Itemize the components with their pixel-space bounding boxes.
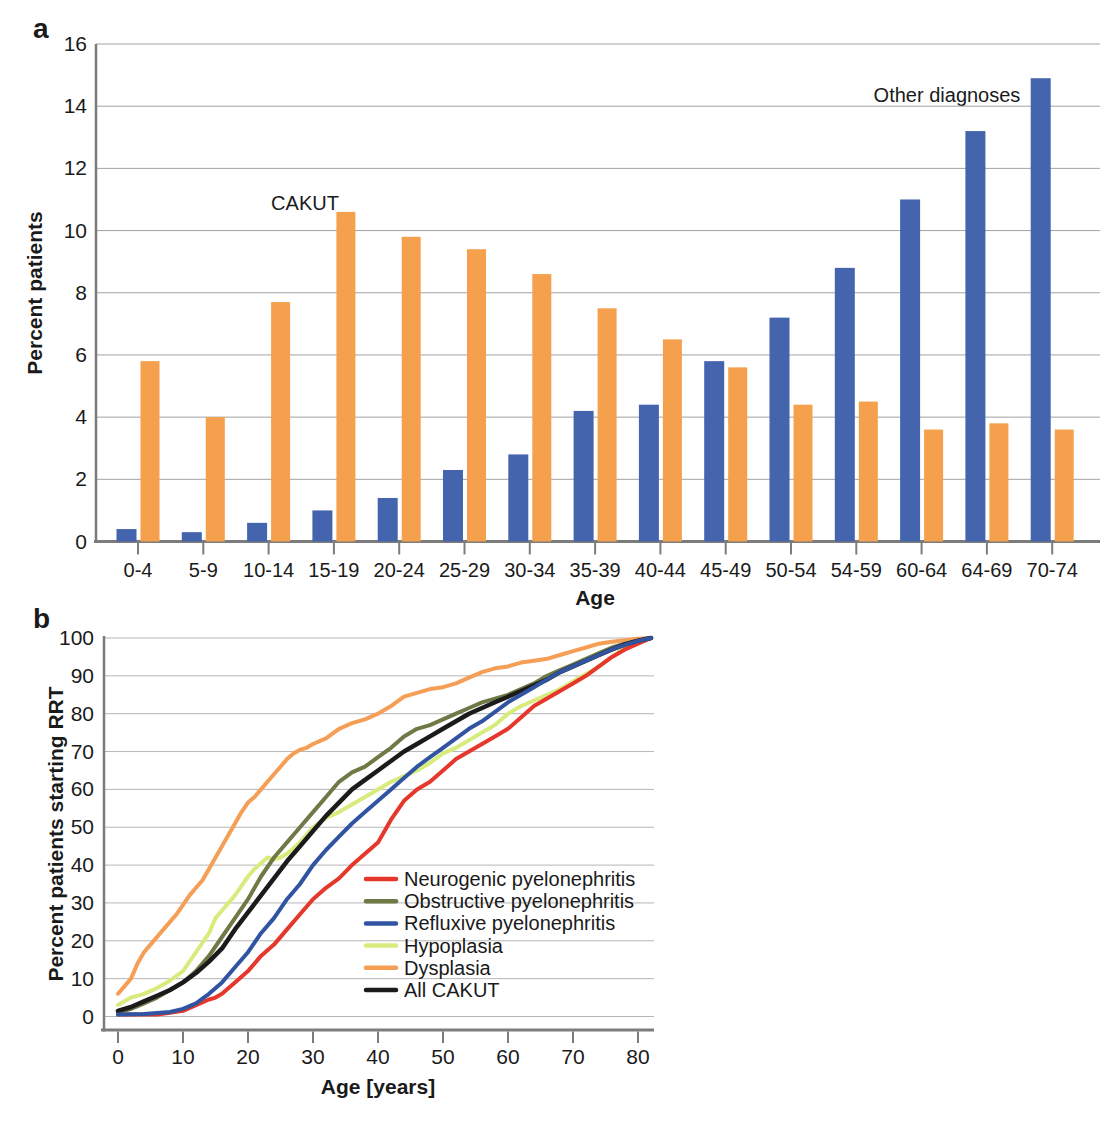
panel-a-ytick-10: 10 <box>64 219 87 242</box>
bar-other-diagnoses-40-44 <box>639 405 659 542</box>
panel-a-chart: 02468101214160-45-910-1415-1920-2425-293… <box>64 32 1100 581</box>
panel-b-xtick-label-70: 70 <box>561 1045 584 1068</box>
legend-label-1: Obstructive pyelonephritis <box>404 890 634 912</box>
bar-other-diagnoses-45-49 <box>704 361 724 541</box>
curve-all-cakut <box>118 638 651 1011</box>
panel-b-ytick-40: 40 <box>71 853 94 876</box>
panel-a-xtick-label-70-74: 70-74 <box>1027 559 1078 581</box>
annotation-cakut: CAKUT <box>271 192 339 214</box>
panel-b-ytick-10: 10 <box>71 967 94 990</box>
legend-label-5: All CAKUT <box>404 979 500 1001</box>
panel-a-xtick-label-10-14: 10-14 <box>243 559 294 581</box>
panel-b-ytick-20: 20 <box>71 929 94 952</box>
panel-a-xtick-label-25-29: 25-29 <box>439 559 490 581</box>
panel-b-xtick-label-20: 20 <box>236 1045 259 1068</box>
panel-b-xtick-label-80: 80 <box>626 1045 649 1068</box>
bar-other-diagnoses-70-74 <box>1031 78 1051 541</box>
panel-a-xtick-label-54-59: 54-59 <box>831 559 882 581</box>
bar-cakut-25-29 <box>467 249 486 541</box>
panel-a-ytick-14: 14 <box>64 94 88 117</box>
panel-a-xtick-label-0-4: 0-4 <box>124 559 153 581</box>
panel-a-ytick-16: 16 <box>64 32 87 55</box>
bar-cakut-45-49 <box>728 367 747 541</box>
bar-cakut-60-64 <box>924 430 943 542</box>
panel-a-xtick-label-50-54: 50-54 <box>765 559 816 581</box>
panel-b-ytick-70: 70 <box>71 740 94 763</box>
panel-a-xtick-label-45-49: 45-49 <box>700 559 751 581</box>
panel-b-ytick-80: 80 <box>71 702 94 725</box>
bar-other-diagnoses-15-19 <box>312 510 332 541</box>
panel-b-y-axis-title: Percent patients starting RRT <box>44 686 67 981</box>
bar-other-diagnoses-10-14 <box>247 523 267 542</box>
annotation-other-diagnoses: Other diagnoses <box>874 84 1021 106</box>
bar-other-diagnoses-20-24 <box>378 498 398 542</box>
bar-other-diagnoses-64-69 <box>965 131 985 541</box>
panel-a-xtick-label-35-39: 35-39 <box>570 559 621 581</box>
bar-other-diagnoses-5-9 <box>182 532 202 541</box>
bar-other-diagnoses-60-64 <box>900 199 920 541</box>
panel-a-ytick-8: 8 <box>75 281 87 304</box>
panel-a-x-axis-title: Age <box>575 586 615 609</box>
panel-a-xtick-label-30-34: 30-34 <box>504 559 555 581</box>
bar-cakut-50-54 <box>794 405 813 542</box>
panel-a-ytick-2: 2 <box>75 467 87 490</box>
panel-a-xtick-label-64-69: 64-69 <box>961 559 1012 581</box>
figure-canvas: a Percent patients Age CAKUT Other diagn… <box>0 0 1115 1121</box>
legend-label-3: Hypoplasia <box>404 935 504 957</box>
bar-other-diagnoses-35-39 <box>574 411 594 542</box>
panel-b-ytick-100: 100 <box>59 626 94 649</box>
panel-a-xtick-label-20-24: 20-24 <box>374 559 425 581</box>
panel-b-xtick-label-60: 60 <box>496 1045 519 1068</box>
bar-other-diagnoses-54-59 <box>835 268 855 542</box>
panel-b-x-axis-title: Age [years] <box>321 1075 435 1098</box>
panel-a-letter: a <box>33 13 49 44</box>
legend-label-2: Refluxive pyelonephritis <box>404 912 615 934</box>
bar-cakut-30-34 <box>532 274 551 541</box>
panel-b-ytick-90: 90 <box>71 664 94 687</box>
bar-cakut-15-19 <box>336 212 355 542</box>
panel-a-xtick-label-40-44: 40-44 <box>635 559 686 581</box>
panel-b-ytick-30: 30 <box>71 891 94 914</box>
legend-label-0: Neurogenic pyelonephritis <box>404 868 635 890</box>
panel-b-xtick-label-50: 50 <box>431 1045 454 1068</box>
panel-a-ytick-4: 4 <box>75 405 87 428</box>
panel-b-chart: 010203040506070809010001020304050607080N… <box>59 626 654 1068</box>
bar-cakut-64-69 <box>989 423 1008 541</box>
panel-a-xtick-label-60-64: 60-64 <box>896 559 947 581</box>
panel-a-ytick-0: 0 <box>75 530 87 553</box>
curve-neurogenic-pyelonephritis <box>118 638 651 1015</box>
panel-b-xtick-label-30: 30 <box>301 1045 324 1068</box>
bar-other-diagnoses-0-4 <box>117 529 137 541</box>
panel-a-y-axis-title: Percent patients <box>23 211 46 374</box>
bar-cakut-10-14 <box>271 302 290 541</box>
bar-cakut-54-59 <box>859 402 878 542</box>
panel-b-letter: b <box>33 603 50 634</box>
figure-cakut-rrt: a Percent patients Age CAKUT Other diagn… <box>0 0 1115 1121</box>
panel-a-ytick-6: 6 <box>75 343 87 366</box>
bar-cakut-35-39 <box>598 308 617 541</box>
bar-cakut-5-9 <box>206 417 225 541</box>
panel-b-xtick-label-10: 10 <box>171 1045 194 1068</box>
panel-b-ytick-0: 0 <box>82 1005 94 1028</box>
panel-a-xtick-label-15-19: 15-19 <box>308 559 359 581</box>
bar-other-diagnoses-25-29 <box>443 470 463 542</box>
panel-a-xtick-label-5-9: 5-9 <box>189 559 218 581</box>
panel-b-ytick-50: 50 <box>71 815 94 838</box>
panel-a-ytick-12: 12 <box>64 156 87 179</box>
panel-b-xtick-label-0: 0 <box>112 1045 124 1068</box>
legend-label-4: Dysplasia <box>404 957 492 979</box>
curve-hypoplasia <box>118 638 651 1005</box>
bar-cakut-0-4 <box>141 361 160 541</box>
bar-other-diagnoses-50-54 <box>770 318 790 542</box>
curve-obstructive-pyelonephritis <box>118 638 651 1013</box>
curve-refluxive-pyelonephritis <box>118 638 651 1015</box>
bar-cakut-40-44 <box>663 339 682 541</box>
bar-cakut-70-74 <box>1055 430 1074 542</box>
panel-b-xtick-label-40: 40 <box>366 1045 389 1068</box>
bar-other-diagnoses-30-34 <box>508 454 528 541</box>
panel-b-ytick-60: 60 <box>71 777 94 800</box>
bar-cakut-20-24 <box>402 237 421 542</box>
